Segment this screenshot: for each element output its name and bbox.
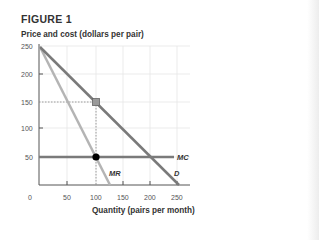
- y-tick-150: 150: [21, 99, 33, 106]
- y-tick-250: 250: [21, 43, 33, 50]
- x-tick-150: 150: [117, 194, 129, 201]
- mr-mc-intersection-point: [92, 153, 99, 160]
- y-tick-200: 200: [21, 71, 33, 78]
- mc-label: MC: [177, 153, 189, 162]
- x-tick-200: 200: [144, 194, 156, 201]
- x-tick-0: 0: [28, 194, 32, 201]
- y-tick-50: 50: [25, 154, 33, 161]
- d-label: D: [174, 169, 180, 178]
- chart-plot: 250 200 150 100 50 0 50 100 150 200 250 …: [0, 0, 207, 224]
- x-tick-100: 100: [90, 194, 102, 201]
- x-tick-250: 250: [171, 194, 183, 201]
- y-tick-100: 100: [21, 125, 33, 132]
- mr-label: MR: [109, 169, 121, 178]
- mr-line: [40, 47, 110, 185]
- x-tick-50: 50: [63, 194, 71, 201]
- profit-max-price-point: [93, 99, 100, 106]
- demand-line: [40, 47, 179, 185]
